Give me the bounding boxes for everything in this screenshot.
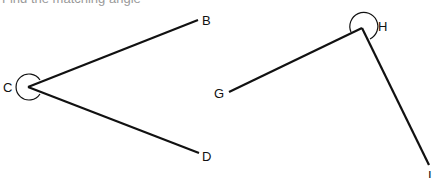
ray-cb [28, 20, 198, 87]
label-i: I [428, 168, 432, 178]
angle-h-reflex-arc [350, 12, 378, 39]
angle-bcd: C B D [3, 13, 211, 164]
label-g: G [214, 86, 224, 101]
label-b: B [202, 13, 211, 28]
label-c: C [3, 80, 12, 95]
angle-ghi: H G I [214, 12, 432, 178]
angles-diagram: C B D H G I [0, 0, 437, 178]
ray-hi [362, 28, 429, 165]
label-h: H [378, 19, 387, 34]
ray-cd [28, 87, 199, 153]
ray-hg [229, 28, 362, 92]
label-d: D [202, 149, 211, 164]
